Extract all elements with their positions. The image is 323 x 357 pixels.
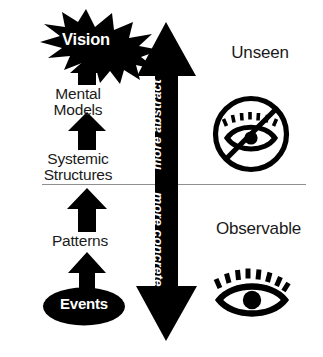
axis-label-more-abstract: more abstract [149,62,164,188]
level-label-vision: Vision [40,31,132,48]
level-label-mental-models: Mental Models [26,86,130,118]
level-label-patterns: Patterns [30,233,130,249]
level-label-events: Events [43,296,125,311]
axis-label-more-concrete: more concrete [151,177,166,303]
level-label-systemic-structures: Systemic Structures [18,151,138,183]
zone-label-unseen: Unseen [205,44,315,61]
zone-label-observable: Observable [196,220,321,237]
